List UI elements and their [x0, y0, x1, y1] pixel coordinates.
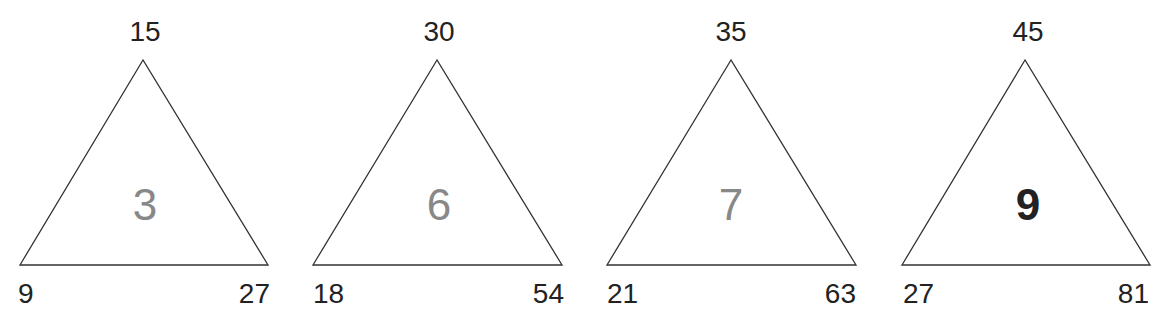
- bottom-left-number: 18: [313, 280, 344, 308]
- top-number: 35: [715, 18, 746, 46]
- bottom-left-number: 27: [903, 280, 934, 308]
- triangle-puzzle-3: 35 21 63 7: [588, 0, 882, 327]
- center-number-answer: 9: [1016, 183, 1040, 227]
- top-number: 45: [1012, 18, 1043, 46]
- center-number: 3: [133, 183, 157, 227]
- bottom-right-number: 63: [825, 280, 856, 308]
- center-number: 7: [719, 183, 743, 227]
- bottom-right-number: 54: [533, 280, 564, 308]
- triangle-puzzle-2: 30 18 54 6: [294, 0, 588, 327]
- bottom-right-number: 81: [1118, 280, 1149, 308]
- bottom-left-number: 9: [18, 280, 34, 308]
- top-number: 30: [423, 18, 454, 46]
- triangle-puzzle-4: 45 27 81 9: [882, 0, 1165, 327]
- center-number: 6: [427, 183, 451, 227]
- top-number: 15: [129, 18, 160, 46]
- bottom-left-number: 21: [607, 280, 638, 308]
- bottom-right-number: 27: [239, 280, 270, 308]
- triangle-puzzle-1: 15 9 27 3: [0, 0, 294, 327]
